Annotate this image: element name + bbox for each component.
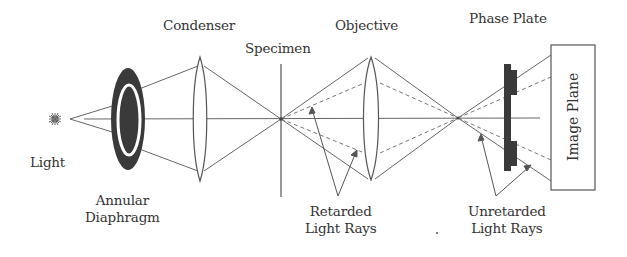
annular-diaphragm — [111, 68, 145, 170]
retarded-ray-lower-2 — [380, 118, 458, 153]
retarded-pointer-arrows — [309, 107, 357, 196]
ray-diaphragm-lower — [134, 147, 198, 171]
ray-condenser-lower — [204, 119, 281, 171]
ray-spec-upper — [281, 58, 368, 119]
label-condenser: Condenser — [163, 17, 235, 34]
ray-obj-lower — [375, 118, 458, 179]
label-unretarded-rays: Unretarded Light Rays — [468, 203, 546, 237]
sun-star-icon — [49, 113, 61, 125]
label-light: Light — [30, 154, 65, 171]
optical-axis — [84, 118, 540, 119]
condenser-lens — [193, 57, 207, 181]
retarded-ray-upper-2 — [380, 83, 458, 118]
phase-plate — [504, 64, 517, 171]
label-image-plane: Image Plane — [565, 73, 581, 161]
label-objective: Objective — [335, 17, 398, 34]
ray-obj-upper — [375, 58, 458, 118]
label-specimen: Specimen — [245, 40, 311, 57]
retarded-ray-upper-1 — [281, 84, 362, 119]
ray-condenser-upper — [204, 66, 281, 119]
ray-diaphragm-upper — [134, 66, 198, 91]
objective-lens — [364, 57, 379, 180]
label-retarded-rays: Retarded Light Rays — [305, 203, 376, 237]
label-phase-plate: Phase Plate — [469, 10, 547, 27]
label-annular-diaphragm: Annular Diaphragm — [85, 192, 160, 226]
